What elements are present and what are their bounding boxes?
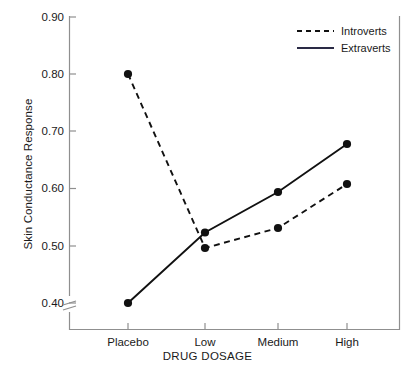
- plot-area: [0, 0, 415, 365]
- legend-label-extraverts: Extraverts: [341, 42, 391, 54]
- x-axis-label: DRUG DOSAGE: [0, 350, 415, 362]
- x-tick-label-medium: Medium: [258, 336, 299, 348]
- axis-break-icon: [63, 301, 76, 310]
- legend-label-introverts: Introverts: [341, 25, 387, 37]
- series-introverts: [124, 70, 351, 252]
- x-tick-label-low: Low: [194, 336, 215, 348]
- chart-figure: Skin Conductance Response 0.40 0.50 0.60…: [0, 0, 415, 365]
- x-tick-label-high: High: [335, 336, 359, 348]
- plot-frame: [69, 16, 400, 330]
- x-tick-label-placebo: Placebo: [107, 336, 149, 348]
- series-extraverts: [124, 140, 351, 307]
